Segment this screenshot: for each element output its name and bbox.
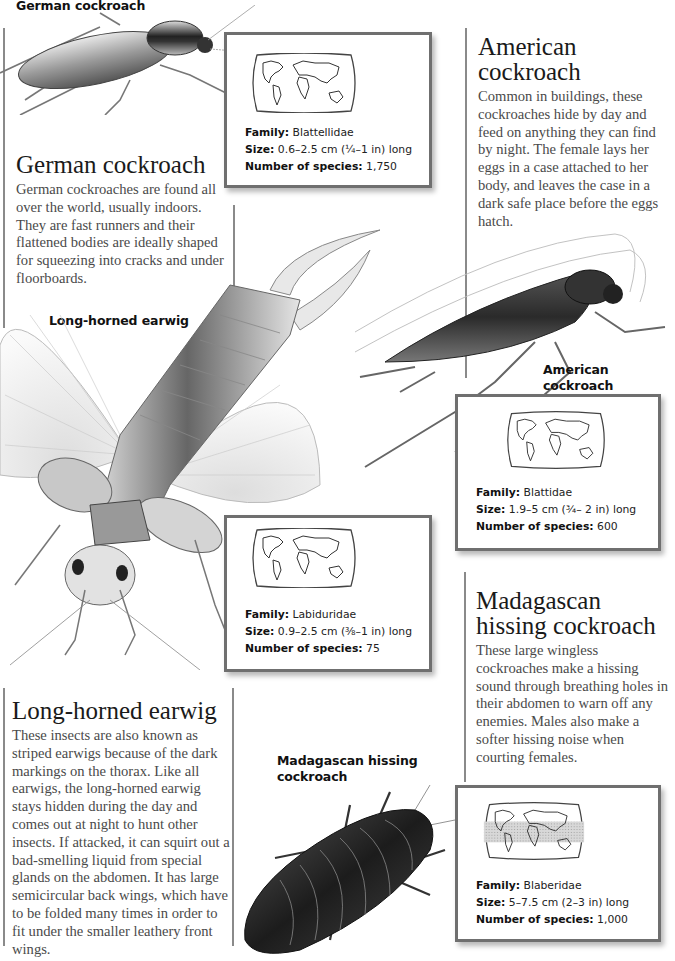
- family-row: Family: Blattidae: [476, 484, 636, 501]
- american-cockroach-illustration-label: American cockroach: [543, 362, 675, 394]
- species-count-row: Number of species: 75: [245, 640, 412, 657]
- right-column-rule-bottom: [464, 572, 466, 782]
- size-row: Size: 0.9–2.5 cm (⅜–1 in) long: [245, 623, 412, 640]
- center-column-rule-bottom: [232, 688, 234, 946]
- long-horned-earwig-fact-box: Family: Labiduridae Size: 0.9–2.5 cm (⅜–…: [224, 515, 432, 672]
- species-count-row: Number of species: 1,750: [245, 158, 412, 175]
- american-cockroach-fact-box: Family: Blattidae Size: 1.9–5 cm (¾– 2 i…: [455, 394, 661, 551]
- german-cockroach-illustration: [0, 5, 260, 115]
- species-count-row: Number of species: 600: [476, 518, 636, 535]
- madagascan-hissing-cockroach-fact-box: Family: Blaberidae Size: 5–7.5 cm (2–3 i…: [455, 785, 661, 942]
- madagascan-hissing-cockroach-text-block: Madagascanhissing cockroach These large …: [476, 588, 671, 767]
- size-row: Size: 1.9–5 cm (¾– 2 in) long: [476, 501, 636, 518]
- size-row: Size: 0.6–2.5 cm (¼–1 in) long: [245, 141, 412, 158]
- family-row: Family: Labiduridae: [245, 606, 412, 623]
- long-horned-earwig-description: These insects are also known as striped …: [12, 727, 232, 958]
- world-map-icon: [249, 53, 359, 113]
- size-row: Size: 5–7.5 cm (2–3 in) long: [476, 894, 629, 911]
- american-cockroach-heading: Americancockroach: [478, 34, 673, 84]
- species-count-row: Number of species: 1,000: [476, 911, 629, 928]
- american-cockroach-text-block: Americancockroach Common in buildings, t…: [478, 34, 673, 230]
- left-column-rule-bottom: [3, 688, 5, 946]
- world-map-icon: [504, 411, 608, 469]
- family-row: Family: Blaberidae: [476, 877, 629, 894]
- madagascan-hissing-cockroach-heading: Madagascanhissing cockroach: [476, 588, 671, 638]
- american-cockroach-description: Common in buildings, these cockroaches h…: [478, 88, 673, 230]
- family-row: Family: Blattellidae: [245, 124, 412, 141]
- long-horned-earwig-heading: Long-horned earwig: [12, 698, 232, 723]
- long-horned-earwig-text-block: Long-horned earwig These insects are als…: [12, 698, 232, 958]
- world-map-tropical-band-icon: [482, 802, 586, 860]
- german-cockroach-heading: German cockroach: [16, 152, 231, 177]
- world-map-icon: [249, 528, 359, 588]
- madagascan-hissing-cockroach-description: These large wingless cockroaches make a …: [476, 642, 671, 767]
- madagascan-hissing-cockroach-illustration: [240, 780, 480, 955]
- german-cockroach-fact-box: Family: Blattellidae Size: 0.6–2.5 cm (¼…: [224, 32, 432, 188]
